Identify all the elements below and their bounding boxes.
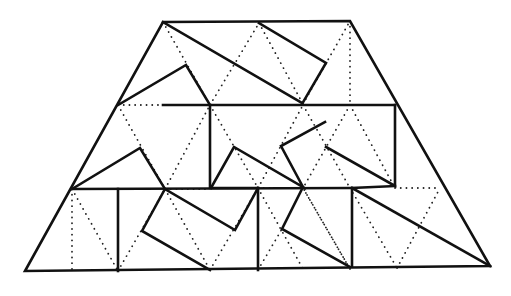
piece-edge: [326, 105, 395, 186]
solid-pieces: [72, 22, 490, 271]
piece-edge: [259, 23, 326, 104]
piece-edge: [352, 186, 395, 266]
grid-dotted-line: [397, 188, 440, 268]
piece-edge: [142, 189, 210, 270]
grid-dotted-line: [258, 229, 282, 270]
row-divider-line: [72, 188, 352, 189]
piece-edge: [118, 65, 210, 105]
piece-edge: [165, 188, 258, 230]
dissection-diagram: [0, 0, 511, 296]
dotted-grid: [72, 21, 440, 271]
piece-edge: [72, 148, 165, 189]
grid-dotted-line: [165, 105, 210, 189]
grid-dotted-line: [72, 189, 118, 271]
piece-edge: [282, 187, 350, 267]
grid-dotted-line: [350, 105, 395, 188]
piece-edge: [211, 122, 325, 188]
